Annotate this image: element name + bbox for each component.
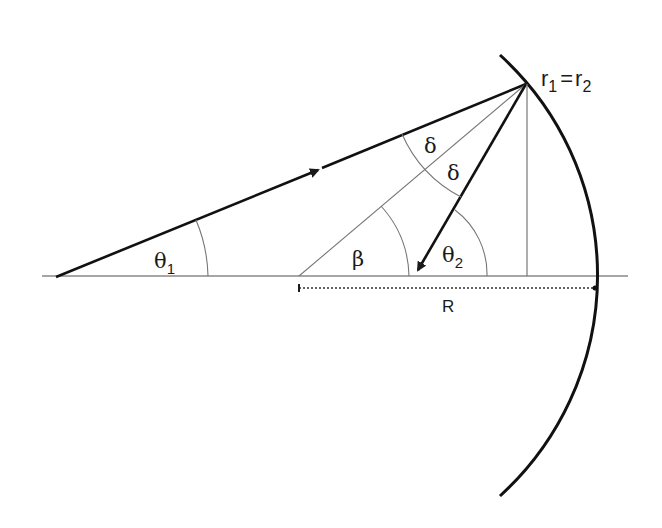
- reflection-diagram: r1=r2 θ1 θ2 β δ δ R: [0, 0, 662, 528]
- normal-line: [299, 84, 526, 276]
- label-beta: β: [352, 247, 364, 271]
- theta1-arc: [196, 220, 208, 276]
- incident-ray-part1: [56, 170, 318, 277]
- label-radius: R: [442, 297, 454, 316]
- label-theta1: θ1: [154, 249, 175, 277]
- label-r1-eq-r2: r1=r2: [541, 66, 591, 95]
- radius-end-dot: [593, 286, 598, 291]
- reflected-ray: [418, 84, 526, 270]
- label-delta-lower: δ: [447, 161, 460, 185]
- label-delta-upper: δ: [424, 134, 437, 158]
- label-theta2: θ2: [442, 243, 463, 271]
- beta-arc: [381, 206, 409, 276]
